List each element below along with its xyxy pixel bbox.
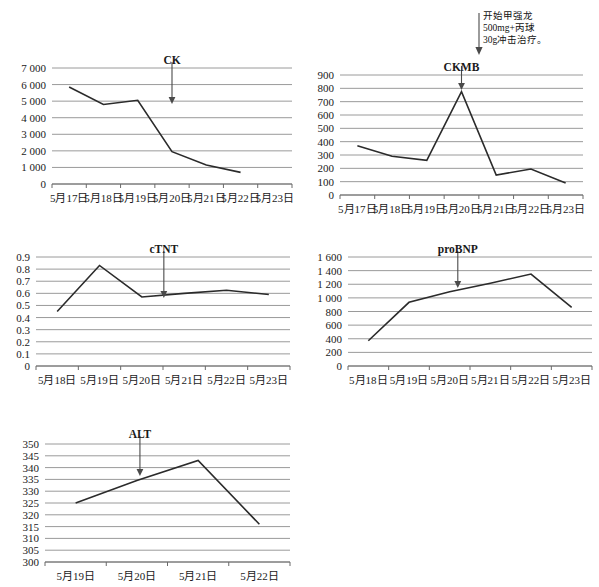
y-tick-label: 0.5 [16, 299, 30, 311]
treatment-start-annotation: 开始甲强龙 500mg+丙球 30g冲击治疗。 [483, 10, 547, 46]
y-tick-label: 0.7 [16, 275, 30, 287]
x-tick-label: 5月18日 [84, 192, 123, 204]
y-axis-labels: 0100200300400500600700800900 [318, 69, 335, 201]
chart-probnp: 02004006008001 0001 2001 4001 6005月18日5月… [300, 232, 599, 395]
y-tick-label: 900 [318, 69, 335, 81]
y-tick-label: 0.9 [16, 251, 30, 263]
x-tick-label: 5月22日 [207, 374, 246, 386]
y-tick-label: 330 [23, 485, 40, 497]
chart-title-ctnt: cTNT [149, 243, 178, 255]
x-tick-label: 5月21日 [179, 570, 218, 582]
y-tick-label: 800 [326, 306, 343, 318]
y-tick-label: 0.8 [16, 263, 30, 275]
arrow-head [458, 83, 465, 90]
y-tick-label: 305 [23, 544, 40, 556]
y-tick-label: 600 [318, 109, 335, 121]
figure-page: 01 0002 0003 0004 0005 0006 0007 0005月17… [0, 0, 599, 587]
y-tick-label: 325 [23, 497, 40, 509]
x-tick-label: 5月22日 [240, 570, 279, 582]
y-tick-label: 0.6 [16, 287, 30, 299]
annotation-line-1: 开始甲强龙 [483, 10, 547, 22]
x-tick-label: 5月23日 [546, 203, 585, 215]
chart-ckmb: 01002003004005006007008009005月17日5月18日5月… [300, 60, 599, 220]
y-tick-label: 0 [329, 189, 335, 201]
y-tick-label: 0.2 [16, 336, 30, 348]
y-tick-label: 500 [318, 122, 335, 134]
y-axis-labels: 00.10.20.30.40.50.60.70.80.9 [16, 251, 30, 372]
arrow-head [137, 469, 144, 476]
y-tick-label: 350 [23, 438, 40, 450]
y-tick-label: 1 400 [317, 265, 342, 277]
x-tick-label: 5月18日 [349, 374, 388, 386]
chart-panel-alt: 3003053103153203253303353403453505月19日5月… [0, 414, 300, 587]
y-tick-label: 4 000 [21, 112, 46, 124]
y-tick-label: 340 [23, 462, 40, 474]
gridlines [348, 257, 592, 366]
y-tick-label: 0 [25, 360, 31, 372]
y-tick-label: 400 [318, 136, 335, 148]
chart-alt: 3003053103153203253303353403453505月19日5月… [0, 414, 300, 587]
x-axis-labels: 5月19日5月20日5月21日5月22日 [56, 570, 278, 582]
y-tick-label: 7 000 [21, 62, 46, 74]
y-tick-label: 1 200 [317, 278, 342, 290]
x-axis-labels: 5月17日5月18日5月19日5月20日5月21日5月22日5月23日 [338, 203, 585, 215]
y-axis-labels: 01 0002 0003 0004 0005 0006 0007 000 [21, 62, 46, 190]
gridlines [36, 257, 290, 366]
x-tick-label: 5月20日 [430, 374, 469, 386]
x-tick-label: 5月17日 [50, 192, 89, 204]
chart-panel-probnp: 02004006008001 0001 2001 4001 6005月18日5月… [300, 232, 599, 395]
x-tick-label: 5月17日 [338, 203, 377, 215]
chart-title-ck: CK [163, 54, 180, 66]
y-tick-label: 200 [318, 162, 335, 174]
x-tick-marks [36, 366, 290, 370]
x-tick-label: 5月22日 [512, 203, 551, 215]
chart-title-ckmb: CKMB [444, 61, 480, 73]
x-tick-marks [340, 195, 583, 199]
x-tick-marks [45, 562, 290, 566]
chart-title-probnp: proBNP [438, 243, 478, 256]
chart-panel-ck: 01 0002 0003 0004 0005 0006 0007 0005月17… [0, 42, 300, 220]
y-axis-labels: 02004006008001 0001 2001 4001 600 [317, 251, 342, 372]
y-tick-label: 0 [337, 360, 343, 372]
y-tick-label: 100 [318, 176, 335, 188]
y-tick-label: 335 [23, 473, 40, 485]
x-tick-label: 5月19日 [56, 570, 95, 582]
x-tick-label: 5月20日 [153, 192, 192, 204]
y-tick-label: 700 [318, 96, 335, 108]
x-tick-label: 5月23日 [250, 374, 289, 386]
chart-ck: 01 0002 0003 0004 0005 0006 0007 0005月17… [0, 42, 300, 220]
y-tick-label: 5 000 [21, 95, 46, 107]
x-axis-labels: 5月18日5月19日5月20日5月21日5月22日5月23日 [38, 374, 288, 386]
x-tick-marks [348, 366, 592, 370]
y-tick-label: 300 [23, 556, 40, 568]
y-tick-label: 320 [23, 509, 40, 521]
x-tick-label: 5月21日 [471, 374, 510, 386]
x-tick-label: 5月21日 [187, 192, 226, 204]
x-tick-label: 5月20日 [442, 203, 481, 215]
y-tick-label: 1 000 [21, 161, 46, 173]
chart-panel-ckmb: 01002003004005006007008009005月17日5月18日5月… [300, 60, 599, 220]
x-tick-label: 5月22日 [221, 192, 260, 204]
x-tick-label: 5月18日 [373, 203, 412, 215]
y-tick-label: 400 [326, 333, 343, 345]
y-tick-label: 800 [318, 82, 335, 94]
pointer-arrow-icon [160, 251, 167, 298]
y-tick-label: 1 000 [317, 292, 342, 304]
annotation-line-3: 30g冲击治疗。 [483, 34, 547, 46]
y-tick-label: 0.4 [16, 312, 30, 324]
x-tick-label: 5月19日 [80, 374, 119, 386]
y-tick-label: 0.3 [16, 324, 30, 336]
y-tick-label: 345 [23, 450, 40, 462]
y-tick-label: 2 000 [21, 145, 46, 157]
x-tick-marks [52, 184, 292, 188]
x-tick-label: 5月23日 [256, 192, 295, 204]
x-tick-label: 5月21日 [165, 374, 204, 386]
x-tick-label: 5月20日 [118, 570, 157, 582]
y-tick-label: 0 [41, 178, 47, 190]
down-arrow-icon [473, 12, 485, 56]
chart-panel-ctnt: 00.10.20.30.40.50.60.70.80.95月18日5月19日5月… [0, 232, 300, 395]
y-tick-label: 600 [326, 319, 343, 331]
x-tick-label: 5月23日 [552, 374, 591, 386]
x-tick-label: 5月20日 [123, 374, 162, 386]
chart-ctnt: 00.10.20.30.40.50.60.70.80.95月18日5月19日5月… [0, 232, 300, 395]
